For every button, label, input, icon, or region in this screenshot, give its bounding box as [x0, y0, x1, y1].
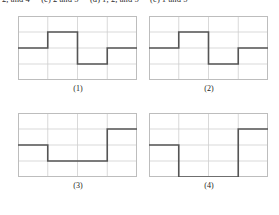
waveform-figure-1: (1)	[18, 16, 138, 94]
answer-choice[interactable]: (d)1, 2, and 5	[90, 0, 139, 4]
answer-choice-text: 2 and 5	[53, 0, 79, 4]
figure-label-3: (3)	[18, 181, 138, 191]
answer-choice-tag: (e)	[150, 0, 160, 4]
waveform-figure-4: (4)	[149, 113, 269, 191]
waveform-path	[18, 32, 137, 64]
waveform-figure-2: (2)	[149, 16, 269, 94]
waveform-figure-3: (3)	[18, 113, 138, 191]
waveform-grid-2	[149, 16, 268, 80]
answer-choice-tag: (c)	[41, 0, 51, 4]
waveform-svg-1	[18, 16, 137, 80]
answer-choice-tag: (d)	[90, 0, 100, 4]
figure-label-2: (2)	[149, 84, 269, 94]
figure-label-4: (4)	[149, 181, 269, 191]
figure-label-1: (1)	[18, 84, 138, 94]
answer-choice-text: 2, and 4	[2, 0, 30, 4]
answer-choice[interactable]: 2, and 4	[0, 0, 30, 4]
figure-panel: (1) (2) (3) (4)	[0, 12, 279, 215]
answer-choice[interactable]: (e)1 and 5	[150, 0, 187, 4]
waveform-svg-2	[149, 16, 268, 80]
waveform-svg-3	[18, 113, 137, 177]
answer-choice[interactable]: (c)2 and 5	[41, 0, 78, 4]
answer-choice-text: 1 and 5	[162, 0, 188, 4]
waveform-grid-3	[18, 113, 137, 177]
answer-choice-text: 1, 2, and 5	[102, 0, 139, 4]
waveform-grid-4	[149, 113, 268, 177]
answer-choices-line: 2, and 4 (c)2 and 5 (d)1, 2, and 5 (e)1 …	[0, 0, 279, 6]
waveform-path	[149, 32, 268, 64]
waveform-grid-1	[18, 16, 137, 80]
waveform-svg-4	[149, 113, 268, 177]
